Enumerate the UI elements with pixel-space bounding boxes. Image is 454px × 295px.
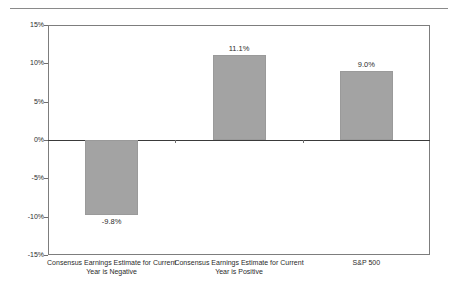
x-axis-category-label-line: Consensus Earnings Estimate for Current xyxy=(40,258,184,267)
x-axis-category-label-line: S&P 500 xyxy=(294,258,438,267)
x-axis-tick-mark xyxy=(175,140,176,143)
bar-value-label: -9.8% xyxy=(72,217,152,226)
y-axis-tick-mark xyxy=(44,255,48,256)
y-axis-tick-mark xyxy=(44,63,48,64)
bar-chart-figure: 15%10%5%0%-5%-10%-15% -9.8%11.1%9.0% Con… xyxy=(0,0,454,295)
x-axis-category-label-line: Consensus Earnings Estimate for Current xyxy=(167,258,311,267)
x-axis-tick-mark xyxy=(303,140,304,143)
y-axis-tick-label: -5% xyxy=(0,174,44,182)
bar-value-label: 11.1% xyxy=(199,44,279,53)
y-axis-tick-label: 0% xyxy=(0,136,44,144)
bar xyxy=(340,71,393,140)
bar xyxy=(213,55,266,140)
y-axis-tick-label: 5% xyxy=(0,98,44,106)
y-axis-tick-mark xyxy=(44,25,48,26)
x-axis-category-label: Consensus Earnings Estimate for CurrentY… xyxy=(167,258,311,276)
x-axis-category-label: S&P 500 xyxy=(294,258,438,267)
x-axis-category-label: Consensus Earnings Estimate for CurrentY… xyxy=(40,258,184,276)
y-axis-tick-mark xyxy=(44,178,48,179)
bar xyxy=(85,140,138,215)
y-axis-tick-label: -10% xyxy=(0,213,44,221)
x-axis-category-label-line: Year is Negative xyxy=(40,267,184,276)
bar-value-label: 9.0% xyxy=(326,60,406,69)
y-axis-tick-mark xyxy=(44,102,48,103)
y-axis-tick-mark xyxy=(44,217,48,218)
y-axis-tick-label: -15% xyxy=(0,251,44,259)
x-axis-category-label-line: Year is Positive xyxy=(167,267,311,276)
y-axis-tick-label: 15% xyxy=(0,21,44,29)
y-axis-tick-label: 10% xyxy=(0,59,44,67)
